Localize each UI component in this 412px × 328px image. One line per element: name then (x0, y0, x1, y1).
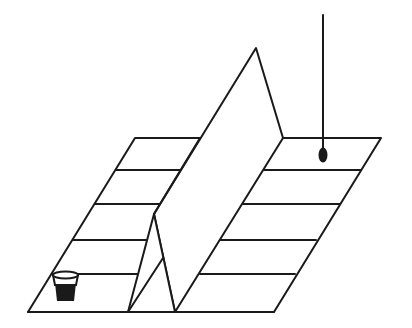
diagram-canvas (0, 0, 412, 328)
cup-icon (53, 272, 78, 302)
board-diagram (0, 0, 412, 328)
